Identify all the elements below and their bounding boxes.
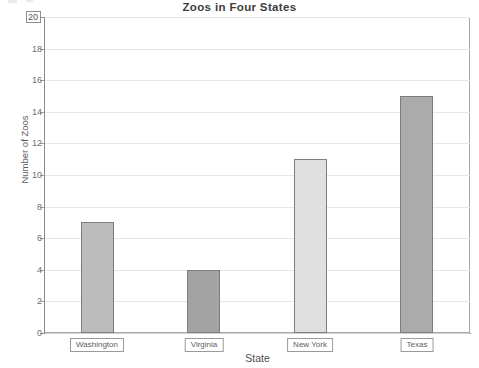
gridline: [45, 333, 470, 334]
bar: [294, 159, 327, 333]
x-axis-category-label: Virginia: [185, 338, 224, 352]
gridline: [45, 17, 470, 18]
x-axis-category-label: New York: [287, 338, 333, 352]
x-axis-category-label: Washington: [70, 338, 124, 352]
x-axis-title: State: [44, 352, 471, 364]
y-tick-label: 18: [4, 44, 42, 54]
y-tick-label: 4: [4, 265, 42, 275]
y-tick-label-wrap: 18: [0, 44, 42, 54]
y-axis-title: Number of Zoos: [19, 80, 30, 220]
y-tick-label-wrap: 20: [0, 12, 42, 22]
bar: [81, 222, 114, 333]
bar: [400, 96, 433, 333]
gridline: [45, 49, 470, 50]
bar-chart: Zoos in Four States 02468101214161820 Wa…: [0, 0, 479, 368]
y-tick-label-wrap: 2: [0, 296, 42, 306]
bar: [187, 270, 220, 333]
y-tick-label-wrap: 0: [0, 328, 42, 338]
y-tick-label-wrap: 6: [0, 233, 42, 243]
x-axis-category-label: Texas: [401, 338, 434, 352]
gridline: [45, 80, 470, 81]
chart-title: Zoos in Four States: [0, 1, 479, 13]
y-tick-label: 2: [4, 296, 42, 306]
y-tick-label: 0: [4, 328, 42, 338]
y-tick-label: 6: [4, 233, 42, 243]
y-tick-label-selected[interactable]: 20: [26, 11, 41, 23]
y-tick-label-wrap: 4: [0, 265, 42, 275]
